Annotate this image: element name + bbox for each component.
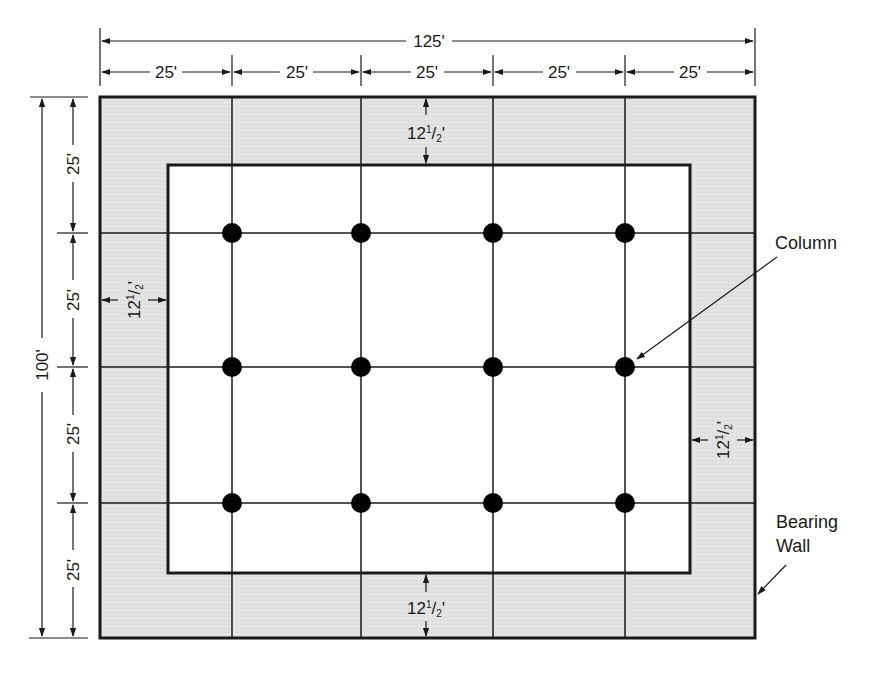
column-marker — [615, 493, 635, 513]
column-marker — [351, 223, 371, 243]
column-marker — [483, 493, 503, 513]
overall-height-label: 100' — [33, 349, 52, 381]
bay-width-label: 25' — [286, 63, 308, 82]
floor-plan-diagram: 125' 25' 25' 25' 25' 25' 100' 25' 25' 25… — [0, 0, 892, 673]
bay-height-label: 25' — [64, 559, 83, 581]
bay-height-label: 25' — [64, 153, 83, 175]
bay-height-label: 25' — [64, 423, 83, 445]
bay-width-label: 25' — [548, 63, 570, 82]
column-marker — [351, 357, 371, 377]
bay-width-label: 25' — [679, 63, 701, 82]
column-marker — [222, 357, 242, 377]
bearing-wall-callout-label: Bearing — [776, 512, 838, 532]
column-marker — [483, 223, 503, 243]
bay-height-label: 25' — [64, 289, 83, 311]
column-callout-label: Column — [775, 233, 837, 253]
bay-width-label: 25' — [155, 63, 177, 82]
bearing-wall-callout-label-line2: Wall — [776, 536, 810, 556]
column-marker — [351, 493, 371, 513]
column-marker — [222, 493, 242, 513]
overall-width-label: 125' — [413, 32, 445, 51]
column-marker — [615, 223, 635, 243]
columns — [222, 223, 635, 513]
inner-wall-outline — [168, 165, 690, 573]
column-marker — [615, 357, 635, 377]
bearing-wall-callout-leader — [758, 565, 786, 594]
column-marker — [483, 357, 503, 377]
column-marker — [222, 223, 242, 243]
structural-grid — [100, 97, 755, 638]
bay-width-label: 25' — [416, 63, 438, 82]
